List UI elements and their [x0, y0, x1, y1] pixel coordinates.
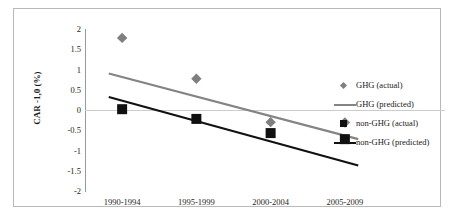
- trend-line: [109, 97, 358, 165]
- black-line-icon-glyph: [334, 142, 356, 145]
- legend-item-label: GHG (actual): [356, 81, 403, 90]
- legend-item: non-GHG (predicted): [334, 133, 459, 152]
- x-tick-label: 2000-2004: [233, 198, 309, 207]
- y-tick-label: 2: [51, 25, 81, 34]
- y-axis-label: CAR -1,0 (%): [32, 43, 42, 153]
- y-tick-label: 0: [51, 106, 81, 115]
- gray-line-icon-glyph: [334, 104, 356, 107]
- x-axis-tick-labels: 1990-19941995-19992000-20042005-2009: [85, 198, 382, 212]
- y-tick-label: 1.5: [51, 45, 81, 54]
- chart-frame: CAR -1,0 (%) 21.510.50-0.5-1-1.5-2 1990-…: [13, 8, 441, 207]
- legend-item-label: non-GHG (actual): [356, 119, 418, 128]
- black-line-icon: [334, 137, 356, 149]
- legend-item-label: non-GHG (predicted): [356, 138, 429, 147]
- y-axis-tick-labels: 21.510.50-0.5-1-1.5-2: [47, 29, 81, 192]
- y-tick-label: -0.5: [51, 126, 81, 135]
- square-marker-icon: [334, 118, 356, 130]
- x-tick-label: 1990-1994: [84, 198, 160, 207]
- legend-item: GHG (actual): [334, 76, 459, 95]
- legend-item-label: GHG (predicted): [356, 100, 414, 109]
- y-tick-label: 0.5: [51, 86, 81, 95]
- y-tick-label: -1.5: [51, 167, 81, 176]
- legend-item: GHG (predicted): [334, 95, 459, 114]
- x-tick-label: 1995-1999: [158, 198, 234, 207]
- x-tick-label: 2005-2009: [307, 198, 383, 207]
- gray-line-icon: [334, 99, 356, 111]
- chart-legend: GHG (actual)GHG (predicted)non-GHG (actu…: [334, 76, 459, 152]
- data-point-square: [191, 114, 201, 124]
- data-point-diamond: [191, 74, 201, 84]
- square-marker-icon-glyph: [340, 120, 347, 127]
- chart-figure: CAR -1,0 (%) 21.510.50-0.5-1-1.5-2 1990-…: [0, 0, 459, 218]
- data-point-diamond: [117, 33, 127, 43]
- y-tick-label: 1: [51, 66, 81, 75]
- diamond-marker-icon-glyph: [340, 81, 347, 88]
- data-point-square: [266, 128, 276, 138]
- legend-item: non-GHG (actual): [334, 114, 459, 133]
- y-tick-label: -1: [51, 147, 81, 156]
- trend-line: [109, 74, 358, 140]
- data-point-diamond: [265, 117, 275, 127]
- diamond-marker-icon: [334, 80, 356, 92]
- y-tick-label: -2: [51, 187, 81, 196]
